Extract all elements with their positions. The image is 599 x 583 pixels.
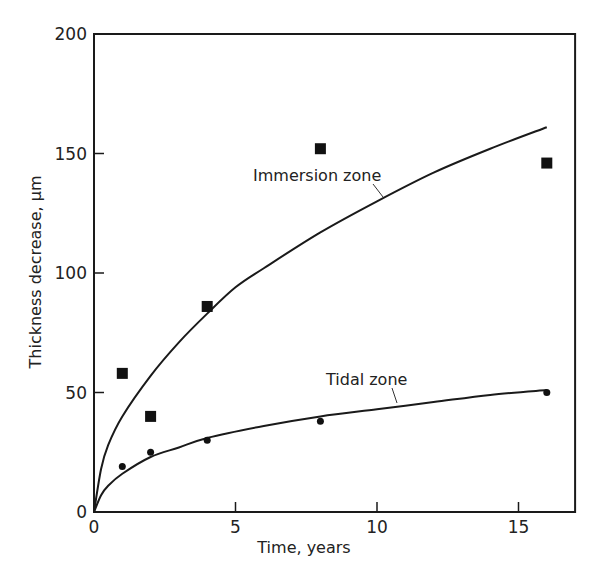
y-tick-label: 0	[76, 502, 87, 522]
immersion-zone-square-marker	[541, 158, 552, 169]
tidal-zone-leader-line	[392, 388, 397, 403]
y-axis-title: Thickness decrease, μm	[26, 176, 45, 370]
x-tick-label: 15	[508, 517, 530, 537]
y-tick-label: 200	[55, 24, 87, 44]
immersion-zone-square-marker	[145, 411, 156, 422]
axis-ticks: 051015050100150200	[55, 24, 530, 537]
immersion-zone-label: Immersion zone	[253, 166, 381, 185]
tidal-zone-circle-marker	[317, 418, 324, 425]
y-tick-label: 150	[55, 144, 87, 164]
plot-border	[94, 34, 575, 512]
x-tick-label: 5	[230, 517, 241, 537]
y-tick-label: 100	[55, 263, 87, 283]
x-tick-label: 10	[366, 517, 388, 537]
annotations: Immersion zoneTidal zone	[253, 166, 407, 403]
y-tick-label: 50	[65, 383, 87, 403]
chart: 051015050100150200 Immersion zoneTidal z…	[0, 0, 599, 583]
tidal-zone-label: Tidal zone	[325, 370, 407, 389]
x-axis-title: Time, years	[256, 538, 350, 557]
plot-frame	[94, 34, 575, 512]
immersion-zone-square-marker	[202, 301, 213, 312]
tidal-zone-circle-marker	[543, 389, 550, 396]
x-tick-label: 0	[89, 517, 100, 537]
tidal-zone-fit-curve	[94, 390, 547, 512]
immersion-zone-square-marker	[117, 368, 128, 379]
immersion-zone-square-marker	[315, 143, 326, 154]
tidal-zone-circle-marker	[147, 449, 154, 456]
tidal-zone-circle-marker	[204, 437, 211, 444]
tidal-zone-circle-marker	[119, 463, 126, 470]
data-markers	[117, 143, 553, 470]
immersion-zone-leader-line	[373, 184, 383, 197]
